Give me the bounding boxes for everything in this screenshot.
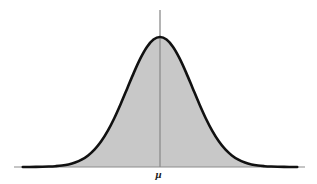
mean-axis-label: μ xyxy=(0,168,317,180)
normal-distribution-chart xyxy=(0,0,317,184)
